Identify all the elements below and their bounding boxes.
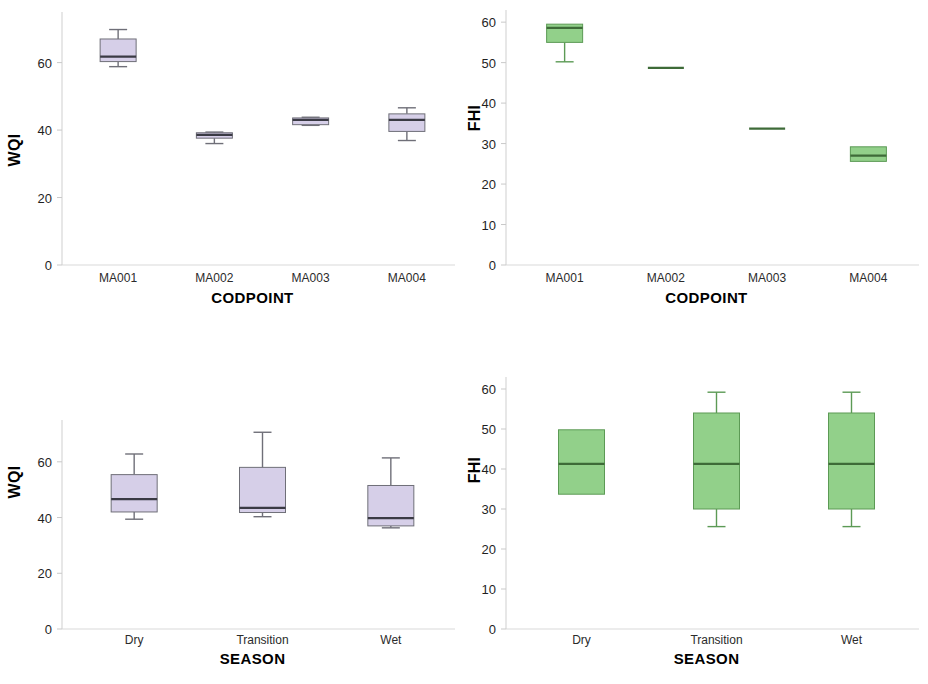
box-plot-wqi-by-season-Dry (111, 454, 157, 519)
y-axis-title: WQI (6, 466, 23, 499)
x-tick-label: Transition (690, 633, 742, 647)
box-plot-wqi-by-codpoint-MA004 (389, 108, 425, 141)
y-tick-label: 60 (482, 15, 496, 30)
y-tick-label: 10 (482, 218, 496, 233)
y-tick-label: 60 (482, 382, 496, 397)
x-tick-label: MA004 (849, 271, 887, 285)
box-plot-fhi-by-codpoint-MA001 (547, 24, 583, 62)
box-body (694, 413, 740, 509)
y-tick-label: 60 (38, 455, 52, 470)
y-tick-label: 40 (38, 511, 52, 526)
chart-wqi-by-season: 0204060WQIDryTransitionWetSEASON (0, 342, 464, 684)
y-tick-label: 10 (482, 582, 496, 597)
box-body (240, 467, 286, 512)
y-tick-label: 0 (45, 258, 52, 273)
y-tick-label: 20 (38, 566, 52, 581)
box-plot-fhi-by-season-Dry (559, 430, 605, 494)
panel-wqi-by-season: 0204060WQIDryTransitionWetSEASON (0, 342, 464, 684)
chart-fhi-by-codpoint: 0102030405060FHIMA001MA002MA003MA004CODP… (464, 0, 928, 342)
y-tick-label: 40 (38, 123, 52, 138)
y-axis-title: FHI (466, 105, 483, 132)
y-tick-label: 60 (38, 56, 52, 71)
x-tick-label: MA003 (292, 271, 330, 285)
y-tick-label: 20 (482, 542, 496, 557)
x-tick-label: MA004 (388, 271, 426, 285)
box-plot-wqi-by-codpoint-MA003 (293, 117, 329, 125)
box-plot-fhi-by-codpoint-MA004 (850, 147, 886, 162)
box-body (829, 413, 875, 509)
panel-fhi-by-season: 0102030405060FHIDryTransitionWetSEASON (464, 342, 928, 684)
chart-fhi-by-season: 0102030405060FHIDryTransitionWetSEASON (464, 342, 928, 684)
box-body (100, 39, 136, 62)
y-tick-label: 40 (482, 96, 496, 111)
y-axis-title: FHI (466, 457, 483, 484)
boxplot-figure: 0204060WQIMA001MA002MA003MA004CODPOINT 0… (0, 0, 928, 684)
y-tick-label: 20 (38, 191, 52, 206)
box-plot-wqi-by-season-Transition (240, 432, 286, 516)
box-plot-wqi-by-codpoint-MA002 (196, 132, 232, 143)
x-tick-label: MA003 (748, 271, 786, 285)
x-axis-title: CODPOINT (665, 289, 747, 306)
y-tick-label: 30 (482, 137, 496, 152)
box-plot-fhi-by-season-Wet (829, 392, 875, 526)
x-tick-label: Dry (572, 633, 591, 647)
x-tick-label: MA002 (195, 271, 233, 285)
x-tick-label: MA001 (546, 271, 584, 285)
x-tick-label: Transition (236, 633, 288, 647)
box-plot-fhi-by-season-Transition (694, 392, 740, 526)
x-tick-label: MA001 (99, 271, 137, 285)
x-axis-title: SEASON (674, 650, 740, 667)
chart-wqi-by-codpoint: 0204060WQIMA001MA002MA003MA004CODPOINT (0, 0, 464, 342)
y-tick-label: 0 (45, 622, 52, 637)
box-body (389, 114, 425, 132)
box-plot-wqi-by-season-Wet (368, 458, 414, 528)
x-tick-label: Wet (380, 633, 402, 647)
box-body (111, 475, 157, 512)
y-tick-label: 0 (489, 258, 496, 273)
panel-wqi-by-codpoint: 0204060WQIMA001MA002MA003MA004CODPOINT (0, 0, 464, 342)
x-tick-label: MA002 (647, 271, 685, 285)
box-body (559, 430, 605, 494)
y-axis-title: WQI (6, 134, 23, 167)
x-axis-title: SEASON (220, 650, 286, 667)
y-tick-label: 0 (489, 622, 496, 637)
y-tick-label: 40 (482, 462, 496, 477)
y-tick-label: 50 (482, 422, 496, 437)
y-tick-label: 30 (482, 502, 496, 517)
x-tick-label: Wet (841, 633, 863, 647)
y-tick-label: 50 (482, 56, 496, 71)
box-plot-wqi-by-codpoint-MA001 (100, 30, 136, 67)
x-axis-title: CODPOINT (211, 289, 293, 306)
box-body (850, 147, 886, 162)
panel-fhi-by-codpoint: 0102030405060FHIMA001MA002MA003MA004CODP… (464, 0, 928, 342)
x-tick-label: Dry (125, 633, 144, 647)
box-body (368, 485, 414, 525)
y-tick-label: 20 (482, 177, 496, 192)
